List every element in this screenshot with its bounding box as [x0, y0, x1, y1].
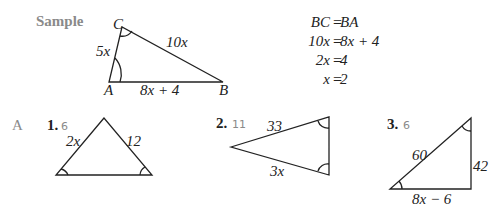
problem-3-answer: 6	[403, 119, 410, 132]
problem-1-side-right: 12	[126, 133, 141, 150]
problem-2-side-bottom: 3x	[270, 163, 284, 180]
problem-2-side-top: 33	[267, 118, 282, 135]
vertex-C: C	[113, 16, 123, 33]
problem-3-number: 3.	[387, 116, 398, 133]
problem-2-answer: 11	[232, 118, 246, 131]
problem-1-number: 1.	[47, 117, 58, 134]
angle-arc-A	[115, 58, 121, 82]
sample-equations: BC = BA 10x = 8x + 4 2x = 4 x = 2	[270, 14, 470, 94]
problem-3-side-hypotenuse: 60	[412, 147, 427, 164]
side-CB-label: 10x	[166, 34, 188, 51]
sample-label: Sample	[36, 13, 84, 30]
problem-3-side-bottom: 8x − 6	[412, 191, 451, 208]
section-label: A	[12, 117, 23, 134]
side-AB-label: 8x + 4	[140, 82, 179, 99]
problem-1-answer: 6	[61, 120, 68, 133]
side-AC-label: 5x	[96, 43, 110, 60]
vertex-B: B	[219, 82, 228, 99]
problem-3-side-right: 42	[473, 158, 488, 175]
problem-1-side-left: 2x	[66, 133, 80, 150]
problem-2-number: 2.	[216, 115, 227, 132]
vertex-A: A	[104, 82, 113, 99]
